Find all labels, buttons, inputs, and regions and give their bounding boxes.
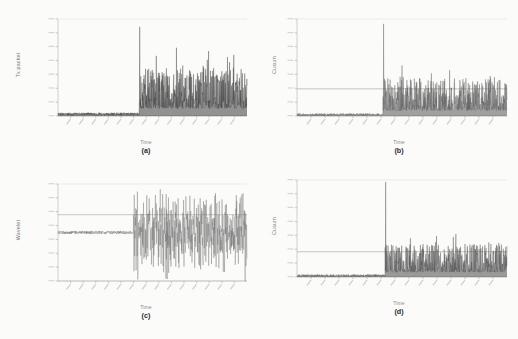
panel-b: Cusum Time (b): [259, 0, 518, 169]
panel-a-ylabel: Tx packet: [15, 42, 21, 88]
panel-c: Wavelet Time (c): [0, 169, 259, 339]
panel-d: Cusum Time (d): [259, 169, 518, 339]
panel-d-plot-area: Cusum Time (d): [259, 169, 518, 339]
panel-c-ylabel: Wavelet: [15, 207, 21, 253]
plot-d: [283, 177, 509, 293]
panel-a-caption: (a): [106, 146, 186, 155]
panel-b-caption: (b): [359, 146, 439, 155]
panel-d-caption: (d): [359, 307, 439, 316]
panel-a: Tx packet Time (a): [0, 0, 259, 169]
panel-c-plot-area: Wavelet Time (c): [0, 169, 259, 339]
panel-a-xlabel: Time: [106, 139, 186, 145]
panel-b-plot-area: Cusum Time (b): [259, 0, 518, 169]
panel-b-xlabel: Time: [359, 139, 439, 145]
plot-a: [44, 16, 249, 132]
panel-a-plot-area: Tx packet Time (a): [0, 0, 259, 169]
plot-c: [44, 181, 249, 297]
panel-b-ylabel: Cusum: [271, 42, 277, 88]
panel-d-ylabel: Cusum: [271, 203, 277, 249]
panel-d-xlabel: Time: [359, 300, 439, 306]
four-panel-figure: Tx packet Time (a) Cusum Time (b) Wavele…: [0, 0, 518, 339]
plot-b: [283, 16, 509, 132]
panel-c-caption: (c): [106, 311, 186, 320]
panel-c-xlabel: Time: [106, 304, 186, 310]
